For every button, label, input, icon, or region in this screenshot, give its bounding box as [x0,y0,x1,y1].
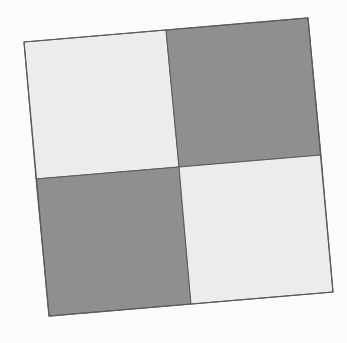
cell-bottom-left [36,167,191,316]
cell-bottom-right [179,155,333,304]
cell-top-left [24,30,179,179]
checkerboard-figure [0,0,347,343]
cell-top-right [166,18,321,167]
